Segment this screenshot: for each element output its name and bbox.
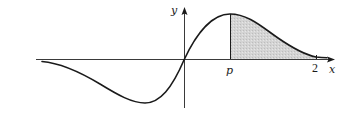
p-label: p (226, 65, 233, 76)
graph-canvas (0, 0, 355, 113)
x-tick-label-2: 2 (312, 62, 318, 74)
function-graph-figure: y p 2 x (0, 0, 355, 113)
x-axis-label: x (329, 64, 335, 75)
y-axis-label: y (171, 5, 177, 16)
